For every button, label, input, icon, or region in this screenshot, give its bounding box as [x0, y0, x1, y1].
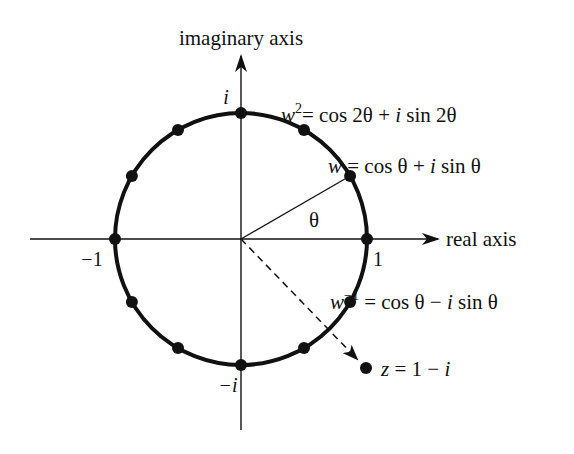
tick-label-neg-imag: −i	[218, 374, 237, 396]
w2-rest: sin 2θ	[401, 103, 457, 127]
annotation-z: z = 1 − i	[380, 357, 450, 381]
complex-plane-diagram: imaginary axis real axis −1 1 i −i θ w2=…	[0, 0, 574, 454]
w-lhs: w	[328, 154, 342, 178]
point-z	[360, 362, 372, 374]
tick-label-neg-real: −1	[81, 248, 102, 270]
circle-point	[361, 233, 373, 245]
circle-point	[298, 342, 310, 354]
tick-label-pos-real: 1	[373, 248, 383, 270]
w2-lhs: w	[281, 103, 295, 127]
circle-point	[235, 359, 247, 371]
annotation-w: w = cos θ + i sin θ	[328, 154, 481, 178]
circle-point	[109, 233, 121, 245]
annotation-w-squared: w2= cos 2θ + i sin 2θ	[281, 101, 457, 127]
w2-rhs: = cos 2θ +	[302, 103, 395, 127]
angle-theta-label: θ	[309, 208, 319, 232]
w-rhs: = cos θ +	[342, 154, 430, 178]
circle-point	[126, 170, 138, 182]
radius-to-w	[241, 176, 350, 239]
winv-rhs: = cos θ −	[359, 290, 447, 314]
winv-sup: −1	[344, 288, 359, 303]
imaginary-axis-label: imaginary axis	[179, 26, 303, 50]
w2-sup: 2	[295, 101, 302, 116]
tick-label-pos-imag: i	[223, 86, 229, 108]
z-lhs: z	[380, 357, 389, 381]
z-i: i	[444, 357, 450, 381]
winv-lhs: w	[330, 290, 344, 314]
w-rest: sin θ	[436, 154, 481, 178]
winv-rest: sin θ	[453, 290, 498, 314]
circle-point	[172, 342, 184, 354]
circle-point	[172, 124, 184, 136]
circle-point	[235, 107, 247, 119]
annotation-w-inverse: w−1 = cos θ − i sin θ	[330, 288, 498, 314]
z-rhs: = 1 −	[389, 357, 444, 381]
real-axis-label: real axis	[446, 227, 517, 251]
circle-point	[126, 296, 138, 308]
